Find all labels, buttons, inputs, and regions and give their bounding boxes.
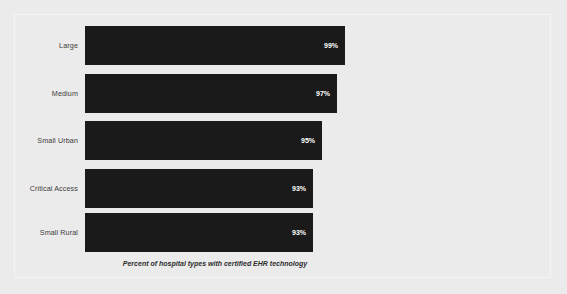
bar-large: 99% [85, 26, 345, 65]
category-label-small-rural: Small Rural [0, 213, 78, 252]
bar-value-small-rural: 93% [292, 213, 306, 252]
category-label-critical-access: Critical Access [0, 169, 78, 208]
bar-small-rural: 93% [85, 213, 313, 252]
bar-small-urban: 95% [85, 121, 322, 160]
category-label-medium: Medium [0, 74, 78, 113]
bar-value-medium: 97% [316, 74, 330, 113]
bar-value-small-urban: 95% [301, 121, 315, 160]
bar-chart-plot-area: Large 99% Medium 97% Small Urban 95% [0, 0, 567, 294]
chart-screenshot: Large 99% Medium 97% Small Urban 95% [0, 0, 567, 294]
bar-value-critical-access: 93% [292, 169, 306, 208]
bar-value-large: 99% [324, 26, 338, 65]
chart-caption: Percent of hospital types with certified… [85, 260, 345, 267]
bar-critical-access: 93% [85, 169, 313, 208]
category-label-large: Large [0, 26, 78, 65]
bar-medium: 97% [85, 74, 337, 113]
category-label-small-urban: Small Urban [0, 121, 78, 160]
